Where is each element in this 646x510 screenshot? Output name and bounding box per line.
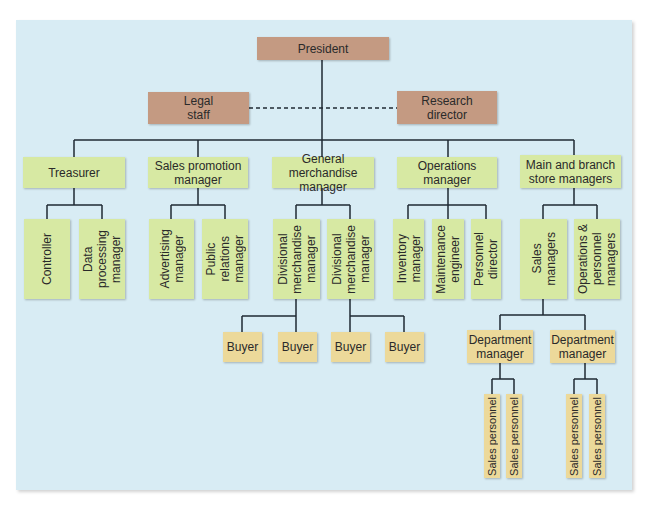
research-director-box: Research director [397,91,497,124]
data-processing-manager-label: Data processing manager [81,230,123,288]
inventory-manager-box: Inventory manager [393,219,424,299]
department-manager-label-1: Department manager [469,333,532,361]
controller-box: Controller [24,219,70,299]
divisional-merchandise-manager-box-2: Divisional merchandise manager [327,219,374,299]
department-manager-box-1: Department manager [467,330,533,363]
buyer-label-1: Buyer [227,340,258,354]
sales-personnel-label-1: Sales personnel [485,397,499,476]
maintenance-engineer-label: Maintenance engineer [434,225,462,294]
divisional-merchandise-manager-box-1: Divisional merchandise manager [273,219,320,299]
maintenance-engineer-box: Maintenance engineer [432,219,464,299]
controller-label: Controller [40,233,54,285]
sales-personnel-label-4: Sales personnel [590,397,604,476]
research-director-label: Research director [421,94,472,122]
president-box: President [257,37,389,60]
buyer-label-3: Buyer [335,340,366,354]
buyer-label-2: Buyer [282,340,313,354]
buyer-box-2: Buyer [278,332,317,362]
sales-personnel-box-3: Sales personnel [566,394,582,478]
sales-personnel-box-2: Sales personnel [506,394,522,478]
operations-manager-box: Operations manager [397,157,497,188]
sales-personnel-label-3: Sales personnel [567,397,581,476]
personnel-director-label: Personnel director [472,232,500,286]
advertising-manager-label: Advertising manager [158,229,186,288]
advertising-manager-box: Advertising manager [149,219,194,299]
public-relations-manager-box: Public relations manager [202,219,248,299]
sales-promotion-manager-box: Sales promotion manager [148,157,248,188]
buyer-box-1: Buyer [223,332,262,362]
sales-personnel-label-2: Sales personnel [507,397,521,476]
main-branch-store-managers-box: Main and branch store managers [520,155,621,188]
general-merchandise-manager-label: General merchandise manager [272,152,374,194]
president-label: President [298,42,349,56]
buyer-box-4: Buyer [385,332,424,362]
sales-personnel-box-4: Sales personnel [589,394,605,478]
buyer-box-3: Buyer [331,332,370,362]
sales-managers-box: Sales managers [520,219,567,299]
operations-manager-label: Operations manager [418,159,477,187]
sales-personnel-box-1: Sales personnel [484,394,500,478]
department-manager-box-2: Department manager [550,330,615,363]
main-branch-store-managers-label: Main and branch store managers [526,158,615,186]
personnel-director-box: Personnel director [471,219,501,299]
divisional-merchandise-manager-label-2: Divisional merchandise manager [330,225,372,294]
treasurer-label: Treasurer [48,166,100,180]
sales-managers-label: Sales managers [530,232,558,285]
operations-personnel-managers-box: Operations & personnel managers [574,219,620,299]
general-merchandise-manager-box: General merchandise manager [272,157,374,188]
legal-staff-label: Legal staff [184,94,213,122]
operations-personnel-managers-label: Operations & personnel managers [576,224,618,294]
department-manager-label-2: Department manager [551,333,614,361]
public-relations-manager-label: Public relations manager [204,235,246,282]
inventory-manager-label: Inventory manager [395,234,423,283]
divisional-merchandise-manager-label-1: Divisional merchandise manager [276,225,318,294]
sales-promotion-manager-label: Sales promotion manager [155,159,242,187]
treasurer-box: Treasurer [23,157,125,188]
data-processing-manager-box: Data processing manager [79,219,125,299]
legal-staff-box: Legal staff [148,92,249,124]
buyer-label-4: Buyer [389,340,420,354]
